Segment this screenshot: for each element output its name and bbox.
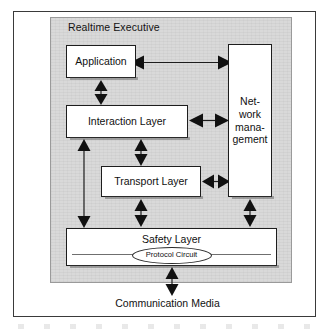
network-label-line-4: gement — [232, 133, 267, 146]
scan-artifact-row — [18, 324, 318, 329]
block-safety-layer[interactable]: Safety Layer Protocol Circuit — [66, 228, 277, 266]
figure-canvas: Realtime Executive — [0, 0, 335, 332]
arrow-transport-safety — [133, 199, 149, 227]
network-label-line-3: mana- — [232, 121, 267, 134]
arrow-network-safety — [242, 199, 258, 227]
block-application[interactable]: Application — [66, 45, 136, 78]
arrow-application-interaction — [93, 80, 109, 105]
communication-media-label: Communication Media — [0, 297, 335, 309]
arrow-interaction-safety — [76, 139, 92, 228]
block-interaction-layer-label: Interaction Layer — [88, 115, 166, 127]
block-application-label: Application — [75, 55, 126, 67]
arrow-interaction-transport — [133, 139, 149, 166]
block-interaction-layer[interactable]: Interaction Layer — [66, 105, 188, 138]
block-safety-layer-label: Safety Layer — [67, 233, 276, 245]
protocol-circuit-node[interactable]: Protocol Circuit — [132, 247, 212, 264]
arrow-interaction-network — [189, 112, 229, 129]
block-transport-layer-label: Transport Layer — [114, 175, 188, 187]
protocol-circuit-label: Protocol Circuit — [146, 251, 197, 260]
network-label-line-1: Net- — [232, 95, 267, 108]
realtime-executive-title: Realtime Executive — [68, 21, 160, 33]
arrow-transport-network — [202, 173, 230, 190]
block-network-management[interactable]: Net- work mana- gement — [228, 44, 272, 197]
network-label-line-2: work — [232, 108, 267, 121]
block-network-management-label: Net- work mana- gement — [232, 95, 267, 146]
arrow-application-network — [130, 54, 232, 71]
arrow-safety-communication-media — [164, 267, 180, 296]
block-transport-layer[interactable]: Transport Layer — [101, 166, 201, 197]
